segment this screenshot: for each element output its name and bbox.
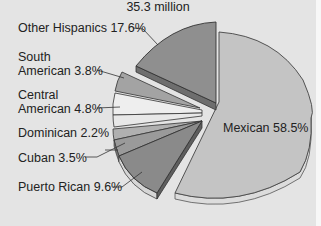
label-central-american-line1: Central xyxy=(18,88,58,103)
label-central-american-line2: American 4.8% xyxy=(18,102,103,117)
chart-frame: 35.3 million Other Hispanics 17.6% South… xyxy=(0,0,321,226)
label-cuban: Cuban 3.5% xyxy=(18,151,87,166)
label-south-american-line1: South xyxy=(18,50,51,65)
label-puerto-rican: Puerto Rican 9.6% xyxy=(18,180,122,195)
label-dominican: Dominican 2.2% xyxy=(18,126,109,141)
label-other-hispanics: Other Hispanics 17.6% xyxy=(18,21,146,36)
label-south-american-line2: American 3.8% xyxy=(18,64,103,79)
chart-title: 35.3 million xyxy=(0,0,316,14)
label-mexican: Mexican 58.5% xyxy=(223,121,308,136)
